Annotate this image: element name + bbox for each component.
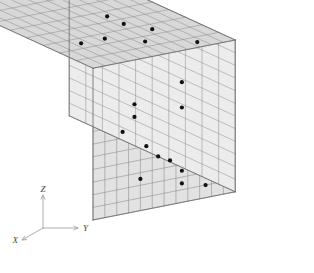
voxel-marker-front <box>138 177 142 181</box>
voxel-marker-front <box>168 158 172 162</box>
voxel-marker-front <box>203 183 207 187</box>
voxel-marker-top <box>79 41 83 45</box>
voxel-marker-top <box>122 22 126 26</box>
voxel-marker-top <box>103 37 107 41</box>
voxel-marker-front <box>156 154 160 158</box>
voxel-marker-top <box>143 39 147 43</box>
voxel-marker-front <box>180 181 184 185</box>
voxel-marker-top <box>195 40 199 44</box>
voxel-marker-front <box>180 80 184 84</box>
voxel-marker-front <box>144 144 148 148</box>
voxel-marker-front <box>121 130 125 134</box>
voxel-marker-top <box>150 27 154 31</box>
figure-container: ZYX <box>0 0 314 273</box>
voxel-marker-front <box>132 102 136 106</box>
voxel-marker-front <box>180 169 184 173</box>
axis-label-x: X <box>12 235 19 245</box>
voxel-marker-front <box>180 105 184 109</box>
voxel-marker-front <box>132 115 136 119</box>
voxel-cube-figure: ZYX <box>0 0 314 273</box>
voxel-marker-top <box>105 14 109 18</box>
